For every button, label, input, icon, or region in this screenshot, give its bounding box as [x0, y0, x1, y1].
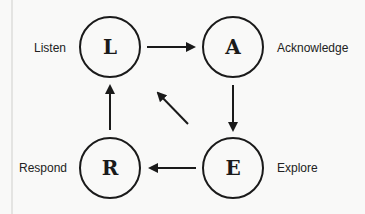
node-label-acknowledge: Acknowledge — [277, 41, 349, 55]
arrow-diagonal-to-l — [158, 93, 188, 124]
node-acknowledge: A Acknowledge — [203, 17, 349, 77]
node-letter-r: R — [102, 156, 119, 180]
node-explore: E Explore — [203, 138, 318, 198]
node-label-explore: Explore — [277, 161, 318, 175]
node-label-listen: Listen — [34, 41, 66, 55]
node-label-respond: Respond — [19, 161, 67, 175]
node-letter-a: A — [224, 35, 241, 59]
node-respond: R Respond — [19, 138, 140, 198]
lare-diagram: L Listen A Acknowledge E Explore R Respo… — [0, 0, 365, 214]
node-listen: L Listen — [34, 17, 140, 77]
node-letter-l: L — [103, 35, 117, 59]
node-letter-e: E — [225, 156, 240, 180]
